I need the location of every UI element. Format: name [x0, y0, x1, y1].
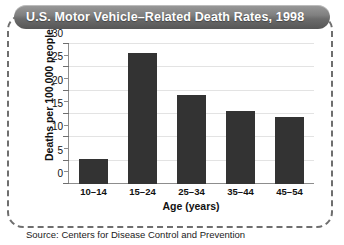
- chart-title-bar: U.S. Motor Vehicle–Related Death Rates, …: [14, 5, 330, 29]
- y-tick-label: 25: [52, 51, 63, 62]
- x-tick-label: 10–14: [69, 186, 118, 197]
- bar: [128, 53, 157, 184]
- source-caption: Source: Centers for Disease Control and …: [26, 229, 245, 240]
- x-axis-title: Age (years): [68, 200, 314, 212]
- bar: [275, 117, 304, 184]
- x-tick-label: 35–44: [216, 186, 265, 197]
- x-tick-label: 25–34: [167, 186, 216, 197]
- x-tick-label: 45–54: [265, 186, 314, 197]
- figure-container: U.S. Motor Vehicle–Related Death Rates, …: [0, 0, 344, 245]
- bar-slot: [265, 44, 314, 184]
- bar: [177, 95, 206, 184]
- bar-slot: [167, 44, 216, 184]
- bar-slot: [216, 44, 265, 184]
- y-tick-label: 10: [52, 121, 63, 132]
- y-tick-label: 5: [57, 144, 63, 155]
- y-tick-label: 20: [52, 74, 63, 85]
- bar-slot: [118, 44, 167, 184]
- x-tick-labels-group: 10–1415–2425–3435–4445–54: [69, 186, 314, 197]
- y-tick-label: 15: [52, 98, 63, 109]
- bar-slot: [69, 44, 118, 184]
- y-tick-label: 30: [52, 28, 63, 39]
- y-tick-label: 0: [57, 168, 63, 179]
- chart-title: U.S. Motor Vehicle–Related Death Rates, …: [26, 10, 304, 24]
- chart-plot-area: Deaths per 100,000 people 051015202530 1…: [20, 34, 320, 220]
- bars-group: [69, 44, 314, 184]
- x-tick-label: 15–24: [118, 186, 167, 197]
- bar: [79, 159, 108, 184]
- bar: [226, 111, 255, 184]
- plot-canvas: 051015202530: [68, 44, 314, 184]
